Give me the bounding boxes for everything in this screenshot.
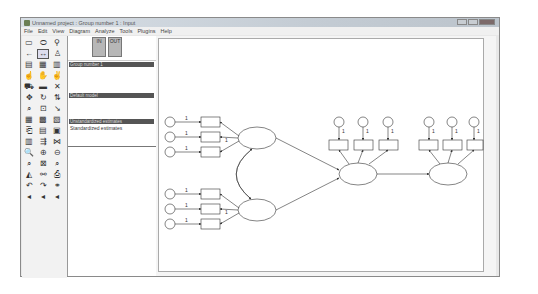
toolbox: ▭ ⬭ ⚲ ← ↔ ♙ ▤ ▦ ▥ ☝ ✋ ✌ ⛟ ▬ ✕ ✥ ↻ ⇅ ⌕ ⊡ … xyxy=(22,36,67,278)
models-list-header[interactable]: Default model xyxy=(69,93,154,98)
object-properties-icon[interactable]: ▥ xyxy=(23,137,35,147)
change-shape-icon[interactable]: ✥ xyxy=(23,93,35,103)
rotate-indicators-icon[interactable]: ↻ xyxy=(37,93,49,103)
draw-unobserved-variable-icon[interactable]: ⬭ xyxy=(37,38,49,48)
preserve-symmetries-icon[interactable]: ⋈ xyxy=(51,137,63,147)
arrow-left-3-icon[interactable]: ◂ xyxy=(51,192,63,202)
view-output-button[interactable]: OUT xyxy=(108,37,122,57)
menu-analyze[interactable]: Analyze xyxy=(95,28,115,34)
draw-path-icon[interactable]: ← xyxy=(23,49,35,59)
arrow-left-2-icon[interactable]: ◂ xyxy=(37,192,49,202)
menu-view[interactable]: View xyxy=(52,28,64,34)
undo-icon[interactable]: ↶ xyxy=(23,181,35,191)
reflect-indicators-icon[interactable]: ⇅ xyxy=(51,93,63,103)
multiple-group-analysis-icon[interactable]: ⚯ xyxy=(37,170,49,180)
specification-search-icon[interactable]: ⚭ xyxy=(51,181,63,191)
menu-tools[interactable]: Tools xyxy=(120,28,133,34)
path-label: 1 xyxy=(185,145,188,151)
path-label: 1 xyxy=(185,217,188,223)
minimize-button[interactable] xyxy=(457,19,467,25)
error-label: 1 xyxy=(342,128,345,134)
delete-icon[interactable]: ✕ xyxy=(51,82,63,92)
close-button[interactable] xyxy=(479,19,495,25)
error-label: 1 xyxy=(477,128,480,134)
duplicate-icon[interactable]: ✌ xyxy=(51,71,63,81)
view-text-output-icon[interactable]: ▤ xyxy=(37,126,49,136)
scroll-icon[interactable]: ⊡ xyxy=(37,104,49,114)
list-variables-in-dataset-icon[interactable]: ▦ xyxy=(37,60,49,70)
model-panel: IN OUT Group number 1 Default model Unst… xyxy=(67,36,156,276)
zoom-in-area-icon[interactable]: 🔍 xyxy=(23,148,35,158)
menu-edit[interactable]: Edit xyxy=(38,28,47,34)
menu-plugins[interactable]: Plugins xyxy=(137,28,155,34)
error-label: 1 xyxy=(455,128,458,134)
window-title: Unnamed project : Group number 1 : Input xyxy=(32,20,135,26)
menu-help[interactable]: Help xyxy=(160,28,171,34)
draw-observed-variable-icon[interactable]: ▭ xyxy=(23,38,35,48)
amos-window: Unnamed project : Group number 1 : Input… xyxy=(20,17,500,277)
view-switcher: IN OUT xyxy=(68,36,156,61)
title-bar[interactable]: Unnamed project : Group number 1 : Input xyxy=(21,18,499,27)
error-label: 1 xyxy=(366,128,369,134)
zoom-page-icon[interactable]: ⌕ xyxy=(23,159,35,169)
arrow-left-1-icon[interactable]: ◂ xyxy=(23,192,35,202)
deselect-all-icon[interactable]: ✋ xyxy=(37,71,49,81)
drag-properties-icon[interactable]: ⇶ xyxy=(37,137,49,147)
save-diagram-icon[interactable]: ▣ xyxy=(51,126,63,136)
drawing-area-frame: 1 1 1 1 1 1 1 1 1 1 1 1 1 1 xyxy=(156,36,496,276)
touch-up-icon[interactable]: ↘ xyxy=(51,104,63,114)
error-label: 1 xyxy=(432,128,435,134)
add-unique-variable-icon[interactable]: ♙ xyxy=(51,49,63,59)
calculate-estimates-icon[interactable]: ▧ xyxy=(51,115,63,125)
menu-bar: File Edit View Diagram Analyze Tools Plu… xyxy=(21,27,499,35)
error-label: 1 xyxy=(391,128,394,134)
select-one-object-icon[interactable]: ▥ xyxy=(51,60,63,70)
path-label: 1 xyxy=(185,130,188,136)
path-label: 1 xyxy=(225,209,228,215)
view-input-button[interactable]: IN xyxy=(92,37,106,57)
draw-latent-indicator-icon[interactable]: ⚲ xyxy=(51,38,63,48)
select-all-icon[interactable]: ☝ xyxy=(23,71,35,81)
sem-diagram: 1 1 1 1 1 1 1 1 1 1 1 1 1 1 xyxy=(159,39,485,273)
path-label: 1 xyxy=(225,137,228,143)
print-icon[interactable]: ⎙ xyxy=(51,170,63,180)
estimates-list-header[interactable]: Unstandardized estimates xyxy=(69,119,154,124)
zoom-in-icon[interactable]: ⊕ xyxy=(37,148,49,158)
analysis-properties-icon[interactable]: ▩ xyxy=(37,115,49,125)
move-parameters-icon[interactable]: ⌕ xyxy=(23,104,35,114)
draw-covariance-icon[interactable]: ↔ xyxy=(37,49,49,59)
redo-icon[interactable]: ↷ xyxy=(37,181,49,191)
zoom-out-icon[interactable]: ⊖ xyxy=(51,148,63,158)
erase-icon[interactable]: ▬ xyxy=(37,82,49,92)
path-label: 1 xyxy=(185,187,188,193)
groups-list-header[interactable]: Group number 1 xyxy=(69,62,154,67)
copy-to-clipboard-icon[interactable]: ⎗ xyxy=(23,126,35,136)
path-diagram-canvas[interactable]: 1 1 1 1 1 1 1 1 1 1 1 1 1 1 xyxy=(158,38,484,272)
menu-diagram[interactable]: Diagram xyxy=(69,28,90,34)
menu-file[interactable]: File xyxy=(24,28,33,34)
select-data-file-icon[interactable]: ▦ xyxy=(23,115,35,125)
path-label: 1 xyxy=(185,202,188,208)
loupe-icon[interactable]: ⌕ xyxy=(51,159,63,169)
maximize-button[interactable] xyxy=(468,19,478,25)
fit-to-page-icon[interactable]: ⊠ xyxy=(37,159,49,169)
app-icon xyxy=(24,20,30,26)
panel-divider xyxy=(68,146,156,147)
move-icon[interactable]: ⛟ xyxy=(23,82,35,92)
standardized-estimates-item[interactable]: Standardized estimates xyxy=(70,125,122,131)
bayesian-estimation-icon[interactable]: ◭ xyxy=(23,170,35,180)
list-variables-in-model-icon[interactable]: ▤ xyxy=(23,60,35,70)
path-label: 1 xyxy=(185,115,188,121)
